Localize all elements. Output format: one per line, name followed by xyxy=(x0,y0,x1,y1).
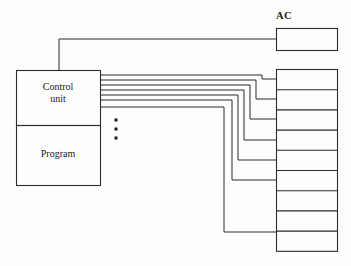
ellipsis-dot xyxy=(115,119,118,122)
ac-block xyxy=(277,29,338,51)
ellipsis-dot xyxy=(115,137,118,140)
bus-line-7 xyxy=(100,107,276,232)
diagram-vector-layer xyxy=(0,0,351,266)
control-unit-block xyxy=(17,71,101,126)
ellipsis-dot xyxy=(115,128,118,131)
bus-line-1 xyxy=(100,75,276,79)
memory-stack-outline xyxy=(277,70,338,252)
control-unit-to-ac-wire xyxy=(59,39,276,70)
program-block xyxy=(17,126,101,186)
diagram-canvas: AC Control unit Program xyxy=(0,0,351,266)
